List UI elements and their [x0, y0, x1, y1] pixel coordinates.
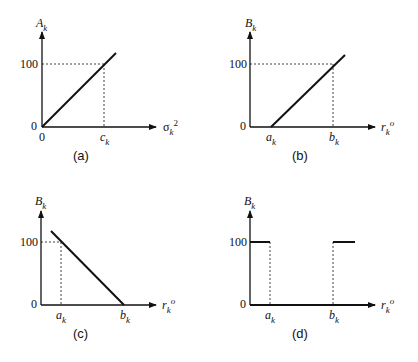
y-tick-100: 100	[229, 57, 247, 71]
caption: (c)	[73, 326, 88, 341]
x-tick-bk: bk	[329, 130, 340, 147]
x-tick-ak: ak	[266, 130, 277, 147]
x-tick-0: 0	[39, 130, 45, 144]
panel-d: Bk 100 0 ak bk rko (d)	[229, 194, 395, 341]
caption: (d)	[292, 326, 308, 341]
y-tick-0: 0	[31, 119, 37, 133]
caption: (a)	[73, 148, 89, 163]
y-axis-label: Bk	[244, 194, 256, 211]
y-tick-0: 0	[240, 119, 246, 133]
x-axis-label: rko	[381, 118, 395, 137]
y-axis-label: Bk	[35, 194, 47, 211]
caption: (b)	[292, 148, 308, 163]
x-axis-label: rko	[381, 296, 395, 315]
y-tick-100: 100	[20, 57, 38, 71]
y-tick-100: 100	[20, 235, 38, 249]
panel-b: Bk 100 0 ak bk rko (b)	[229, 16, 395, 163]
response-line	[51, 231, 124, 305]
x-tick-ak: ak	[265, 308, 276, 325]
x-tick-bk: bk	[329, 308, 340, 325]
panel-a: Ak 100 0 0 ck σk2 (a)	[20, 16, 178, 163]
y-tick-0: 0	[240, 297, 246, 311]
x-tick-ak: ak	[56, 308, 67, 325]
y-tick-100: 100	[229, 235, 247, 249]
y-tick-0: 0	[31, 297, 37, 311]
y-axis-label: Bk	[245, 16, 257, 33]
response-line	[271, 55, 345, 127]
y-axis-label: Ak	[35, 16, 48, 33]
x-axis-label: rko	[162, 296, 176, 315]
x-tick-bk: bk	[120, 308, 131, 325]
panel-c: Bk 100 0 ak bk rko (c)	[20, 194, 176, 341]
x-tick-ck: ck	[100, 130, 110, 147]
x-axis-label: σk2	[163, 118, 178, 137]
